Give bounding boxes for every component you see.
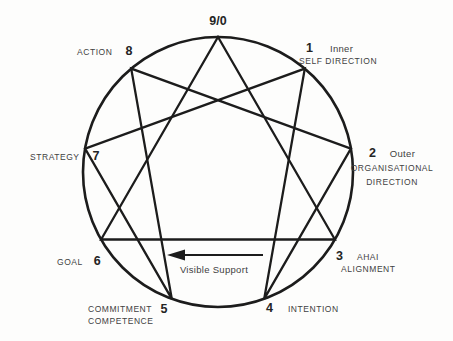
node-9-number: 9/0 [209,14,226,28]
node-3-text-line1: AHAI [357,251,379,263]
node-7-text: STRATEGY [30,151,80,163]
node-2-number: 2 [369,147,376,159]
triangle-9-3-6 [101,37,335,240]
node-8-label: ACTION 8 [77,45,132,58]
node-1-number: 1 [306,42,313,54]
node-6-label: GOAL 6 [57,255,101,268]
node-5-number: 5 [160,303,167,315]
node-5-label: COMMITMENT COMPETENCE 5 [88,303,167,327]
visible-support-arrow-head [167,250,185,261]
node-2-qualifier: Outer [390,148,415,159]
node-2-text-line1: ORGANISATIONAL [350,162,434,176]
visible-support-caption: Visible Support [168,264,260,275]
node-1-label: 1 Inner SELF DIRECTION [299,42,377,67]
node-4-label: 4 INTENTION [266,302,339,315]
node-8-number: 8 [125,45,132,57]
node-3-label: 3 AHAI ALIGNMENT [336,250,396,275]
node-1-qualifier: Inner [330,43,353,54]
node-3-number: 3 [336,250,343,262]
node-3-text-line2: ALIGNMENT [341,263,396,275]
node-4-text: INTENTION [288,303,339,315]
node-9-label: 9/0 [199,11,237,29]
node-7-label: STRATEGY 7 [30,150,100,163]
node-2-text-line2: DIRECTION [350,176,434,190]
node-2-label: 2 Outer ORGANISATIONAL DIRECTION [350,147,434,189]
node-6-text: GOAL [57,256,83,268]
node-7-number: 7 [93,150,100,162]
node-1-text: SELF DIRECTION [299,55,377,67]
node-6-number: 6 [94,255,101,267]
node-8-text: ACTION [77,46,112,58]
node-5-text-line2: COMPETENCE [88,315,153,327]
enneagram-diagram: 9/0 ACTION 8 1 Inner SELF DIRECTION 2 Ou… [0,0,453,341]
node-5-text-line1: COMMITMENT [88,303,153,315]
node-4-number: 4 [266,302,273,314]
